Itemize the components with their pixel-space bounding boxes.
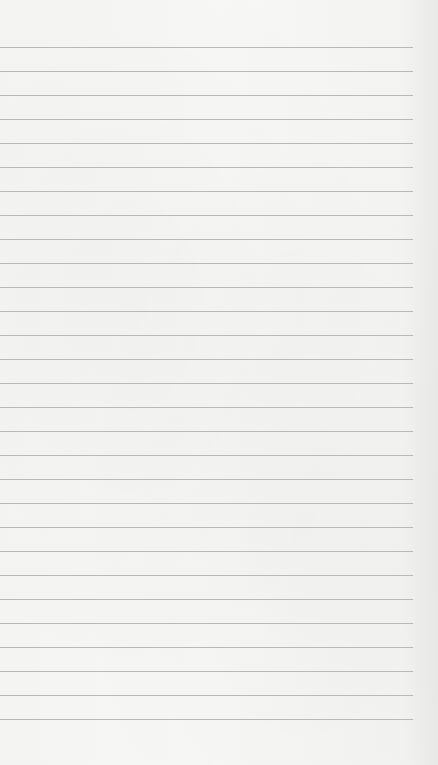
ruled-line xyxy=(0,167,413,168)
ruled-line xyxy=(0,119,413,120)
ruled-line xyxy=(0,407,413,408)
ruled-line xyxy=(0,575,413,576)
ruled-line xyxy=(0,311,413,312)
ruled-line xyxy=(0,215,413,216)
ruled-line xyxy=(0,263,413,264)
ruled-line xyxy=(0,503,413,504)
ruled-line xyxy=(0,143,413,144)
ruled-line xyxy=(0,383,413,384)
ruled-line xyxy=(0,287,413,288)
ruled-line xyxy=(0,551,413,552)
ruled-line xyxy=(0,47,413,48)
ruled-line xyxy=(0,71,413,72)
ruled-line xyxy=(0,335,413,336)
ruled-line xyxy=(0,599,413,600)
ruled-line xyxy=(0,623,413,624)
ruled-line xyxy=(0,95,413,96)
ruled-line xyxy=(0,359,413,360)
ruled-line xyxy=(0,527,413,528)
ruled-lines xyxy=(0,0,438,765)
ruled-line xyxy=(0,719,413,720)
ruled-line xyxy=(0,191,413,192)
ruled-line xyxy=(0,239,413,240)
ruled-line xyxy=(0,479,413,480)
ruled-line xyxy=(0,647,413,648)
ruled-line xyxy=(0,695,413,696)
lined-paper-sheet xyxy=(0,0,438,765)
ruled-line xyxy=(0,431,413,432)
ruled-line xyxy=(0,455,413,456)
ruled-line xyxy=(0,671,413,672)
